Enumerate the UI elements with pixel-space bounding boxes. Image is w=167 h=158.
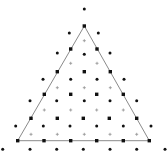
dot-point (109, 52, 112, 55)
outer-dot-points (1, 8, 166, 151)
dot-point (164, 148, 167, 151)
square-node (135, 117, 138, 120)
dot-point (123, 78, 126, 81)
dot-point (96, 78, 99, 81)
square-node (42, 139, 45, 142)
square-node (56, 70, 59, 73)
dot-point (29, 148, 32, 151)
dot-point (69, 78, 72, 81)
dot-point (83, 8, 86, 11)
square-node (69, 93, 72, 96)
dot-point (150, 125, 153, 128)
plus-point (30, 133, 33, 136)
plus-point (56, 86, 59, 89)
dot-point (42, 78, 45, 81)
plus-point (56, 133, 59, 136)
plus-point (122, 109, 125, 112)
dot-point (55, 148, 58, 151)
square-node (83, 24, 86, 27)
triangle-outline (18, 26, 150, 141)
dot-point (29, 99, 32, 102)
square-node (56, 117, 59, 120)
dot-point (56, 52, 59, 55)
triangular-lattice-diagram (0, 0, 167, 158)
square-node (108, 117, 111, 120)
plus-point (69, 109, 72, 112)
dot-point (135, 99, 138, 102)
square-node (43, 93, 46, 96)
plus-point (96, 62, 99, 65)
dot-point (14, 125, 17, 128)
dot-point (109, 148, 112, 151)
square-node (95, 139, 98, 142)
dot-point (122, 125, 125, 128)
square-node (95, 93, 98, 96)
plus-point (95, 109, 98, 112)
square-node (69, 139, 72, 142)
dot-point (135, 148, 138, 151)
plus-point (135, 133, 138, 136)
square-nodes (16, 24, 151, 142)
plus-point (109, 86, 112, 89)
dot-point (68, 32, 71, 35)
dot-point (97, 32, 100, 35)
dot-point (95, 125, 98, 128)
dot-point (82, 148, 85, 151)
dot-point (1, 148, 4, 151)
plus-point (43, 109, 46, 112)
dot-point (42, 125, 45, 128)
square-node (148, 139, 151, 142)
plus-point (69, 62, 72, 65)
dot-point (109, 99, 112, 102)
square-node (95, 47, 98, 50)
square-node (122, 93, 125, 96)
plus-point (83, 39, 86, 42)
plus-point (83, 133, 86, 136)
square-node (109, 70, 112, 73)
dot-point (83, 99, 86, 102)
square-node (82, 117, 85, 120)
square-node (29, 117, 32, 120)
square-node (69, 47, 72, 50)
square-node (16, 139, 19, 142)
square-node (83, 70, 86, 73)
plus-point (83, 86, 86, 89)
square-node (122, 139, 125, 142)
plus-point (109, 133, 112, 136)
dot-point (83, 53, 86, 56)
dot-point (69, 125, 72, 128)
dot-point (55, 99, 58, 102)
